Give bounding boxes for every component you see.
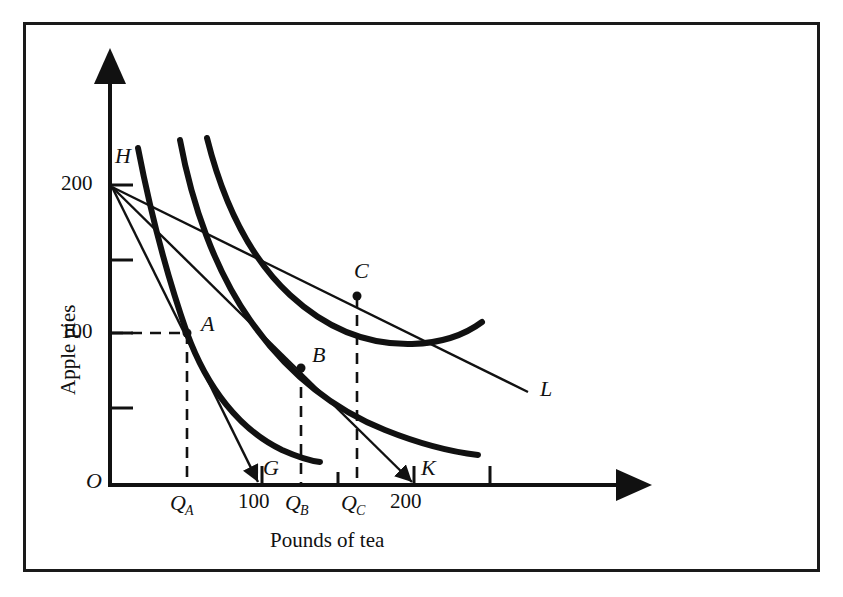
origin-label: O	[86, 468, 102, 494]
point-label-K: K	[421, 455, 436, 481]
x-tick-label-QA: QA	[170, 490, 194, 516]
indifference-curve-1	[138, 148, 320, 462]
qa-subscript: A	[185, 503, 194, 518]
qc-base: Q	[341, 490, 357, 515]
chart-canvas	[0, 0, 843, 597]
x-tick-label-100: 100	[238, 489, 270, 514]
point-label-H: H	[115, 143, 131, 169]
x-tick-label-QC: QC	[341, 490, 366, 516]
qb-base: Q	[285, 490, 301, 515]
equilibrium-point-C	[353, 292, 362, 301]
point-label-C: C	[354, 258, 369, 284]
x-tick-label-QB: QB	[285, 490, 309, 516]
y-tick-label-200: 200	[61, 171, 93, 196]
y-axis-title: Apple pies	[56, 305, 81, 395]
x-tick-label-200: 200	[390, 489, 422, 514]
qc-subscript: C	[356, 503, 365, 518]
figure-stage: 200 100 100 200 O H A B C G K L QA QB QC…	[0, 0, 843, 597]
x-axis-ticks	[262, 466, 490, 485]
x-axis-title: Pounds of tea	[270, 528, 384, 553]
point-label-G: G	[263, 455, 279, 481]
qa-base: Q	[170, 490, 186, 515]
point-label-A: A	[201, 311, 214, 337]
equilibrium-point-B	[297, 364, 306, 373]
equilibrium-point-A	[183, 329, 192, 338]
point-label-B: B	[312, 342, 325, 368]
y-axis-ticks	[110, 185, 133, 408]
qb-subscript: B	[300, 503, 309, 518]
point-label-L: L	[540, 376, 552, 402]
